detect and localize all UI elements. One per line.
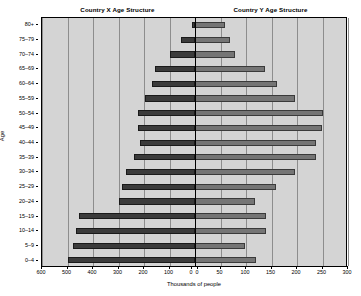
- bar-right-55-59: [195, 95, 295, 101]
- y-tick-label-50-54: 50–54: [19, 110, 34, 116]
- left-panel-title: Country X Age Structure: [41, 6, 194, 13]
- y-tick-mark: [36, 245, 39, 246]
- pyramid-row: [42, 195, 346, 209]
- bar-left-5-9: [73, 243, 195, 249]
- x-tick-mark: [322, 266, 323, 269]
- x-tick-mark: [347, 266, 348, 269]
- x-tick-mark: [197, 266, 198, 269]
- pyramid-row: [42, 92, 346, 106]
- y-tick-label-55-59: 55–59: [19, 95, 34, 101]
- bar-right-15-19: [195, 213, 266, 219]
- x-tick-label-left-300: 300: [113, 269, 122, 275]
- pyramid-row: [42, 19, 346, 33]
- pyramid-row: [42, 63, 346, 77]
- x-tick-label-left-400: 400: [88, 269, 97, 275]
- x-tick-mark: [220, 266, 221, 269]
- y-tick-mark: [36, 186, 39, 187]
- bar-right-10-14: [195, 228, 266, 234]
- bar-right-25-29: [195, 184, 276, 190]
- gridline-right-300: [348, 18, 349, 266]
- bar-right-0-4: [195, 257, 256, 263]
- y-tick-mark: [36, 260, 39, 261]
- pyramid-row: [42, 180, 346, 194]
- y-tick-label-10-14: 10–14: [19, 227, 34, 233]
- y-tick-mark: [36, 230, 39, 231]
- x-tick-label-left-100: 100: [164, 269, 173, 275]
- y-axis-tick-labels: 80+75–7970–7465–6960–6455–5950–5445–4940…: [0, 17, 38, 267]
- bar-left-50-54: [138, 110, 195, 116]
- y-tick-label-65-69: 65–69: [19, 65, 34, 71]
- pyramid-row: [42, 224, 346, 238]
- bar-left-65-69: [155, 66, 195, 72]
- y-tick-mark: [36, 201, 39, 202]
- bar-left-30-34: [126, 169, 195, 175]
- y-tick-mark: [36, 54, 39, 55]
- bar-right-80+: [195, 22, 225, 28]
- x-tick-mark: [245, 266, 246, 269]
- pyramid-row: [42, 254, 346, 268]
- y-tick-mark: [36, 98, 39, 99]
- pyramid-row: [42, 77, 346, 91]
- bar-right-75-79: [195, 37, 230, 43]
- bar-right-5-9: [195, 243, 245, 249]
- y-tick-mark: [36, 157, 39, 158]
- y-tick-label-40-44: 40–44: [19, 139, 34, 145]
- bar-left-55-59: [145, 95, 195, 101]
- pyramid-row: [42, 166, 346, 180]
- x-tick-label-right-100: 100: [241, 269, 250, 275]
- x-tick-label-left-600: 600: [37, 269, 46, 275]
- x-tick-label-left-500: 500: [62, 269, 71, 275]
- bar-right-35-39: [195, 154, 316, 160]
- pyramid-row: [42, 121, 346, 135]
- x-tick-mark: [296, 266, 297, 269]
- pyramid-row: [42, 151, 346, 165]
- y-tick-mark: [36, 127, 39, 128]
- y-tick-mark: [36, 83, 39, 84]
- y-tick-mark: [36, 24, 39, 25]
- x-tick-label-zero-right: 0: [196, 269, 199, 275]
- bar-left-35-39: [134, 154, 195, 160]
- y-tick-label-5-9: 5–9: [25, 242, 34, 248]
- pyramid-row: [42, 210, 346, 224]
- gridline-center-zero: [195, 18, 196, 266]
- plot-area: [41, 17, 347, 267]
- bar-left-75-79: [181, 37, 195, 43]
- bar-right-50-54: [195, 110, 323, 116]
- y-tick-label-20-24: 20–24: [19, 198, 34, 204]
- bar-right-30-34: [195, 169, 295, 175]
- y-tick-mark: [36, 68, 39, 69]
- y-tick-mark: [36, 171, 39, 172]
- bar-left-40-44: [140, 140, 195, 146]
- x-axis-title: Thousands of people: [41, 281, 347, 287]
- y-tick-mark: [36, 142, 39, 143]
- x-tick-label-left-200: 200: [139, 269, 148, 275]
- y-tick-label-0-4: 0–4: [25, 257, 34, 263]
- x-tick-mark: [169, 266, 170, 269]
- x-tick-label-zero-left: 0: [190, 269, 193, 275]
- y-tick-mark: [36, 113, 39, 114]
- bar-right-40-44: [195, 140, 316, 146]
- bar-right-45-49: [195, 125, 322, 131]
- y-tick-label-80+: 80+: [25, 21, 34, 27]
- bar-left-10-14: [76, 228, 195, 234]
- x-tick-label-right-200: 200: [292, 269, 301, 275]
- y-tick-label-45-49: 45–49: [19, 124, 34, 130]
- x-tick-label-right-150: 150: [266, 269, 275, 275]
- y-tick-mark: [36, 39, 39, 40]
- x-tick-mark: [41, 266, 42, 269]
- y-tick-label-30-34: 30–34: [19, 168, 34, 174]
- pyramid-row: [42, 48, 346, 62]
- x-tick-mark: [92, 266, 93, 269]
- y-tick-label-60-64: 60–64: [19, 80, 34, 86]
- x-tick-mark: [271, 266, 272, 269]
- pyramid-row: [42, 239, 346, 253]
- bar-right-60-64: [195, 81, 277, 87]
- bar-right-65-69: [195, 66, 265, 72]
- x-tick-mark: [191, 266, 192, 269]
- x-tick-mark: [118, 266, 119, 269]
- right-panel-title: Country Y Age Structure: [194, 6, 347, 13]
- y-tick-mark: [36, 216, 39, 217]
- bar-left-15-19: [79, 213, 195, 219]
- y-axis-title: Age: [0, 131, 5, 141]
- bar-left-25-29: [122, 184, 195, 190]
